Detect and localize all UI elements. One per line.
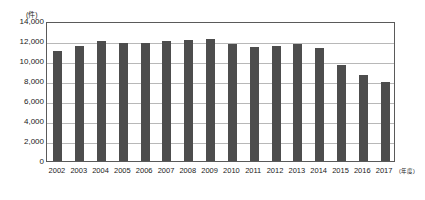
bar-chart: (件) 02,0004,0006,0008,00010,00012,00014,… xyxy=(0,0,425,200)
bar xyxy=(337,65,346,162)
y-axis-tick-label: 4,000 xyxy=(2,118,44,126)
bar xyxy=(272,46,281,161)
bar xyxy=(141,43,150,162)
y-axis-tick-label: 10,000 xyxy=(2,58,44,66)
y-axis-tick-label: 6,000 xyxy=(2,98,44,106)
bar xyxy=(75,46,84,161)
bar xyxy=(381,82,390,162)
y-axis-tick-label: 14,000 xyxy=(2,18,44,26)
bar xyxy=(293,44,302,161)
bar xyxy=(184,40,193,162)
y-axis-tick-label: 0 xyxy=(2,158,44,166)
bar xyxy=(359,75,368,161)
bar xyxy=(250,47,259,161)
bar xyxy=(315,48,324,161)
y-axis-tick-label: 2,000 xyxy=(2,138,44,146)
bar xyxy=(53,51,62,161)
y-axis-tick-labels: 02,0004,0006,0008,00010,00012,00014,000 xyxy=(0,0,44,200)
bar xyxy=(119,43,128,161)
bar xyxy=(97,41,106,161)
bar xyxy=(228,44,237,162)
plot-area xyxy=(46,22,395,162)
bar-series xyxy=(47,23,394,161)
x-axis-unit-label: (年度) xyxy=(399,168,415,175)
bar xyxy=(162,41,171,161)
y-axis-tick-label: 12,000 xyxy=(2,38,44,46)
y-axis-tick-label: 8,000 xyxy=(2,78,44,86)
bar xyxy=(206,39,215,161)
x-axis-tick-label: 2017 xyxy=(369,166,399,175)
x-axis-tick-labels: 2002200320042005200620072008200920102011… xyxy=(46,166,395,186)
